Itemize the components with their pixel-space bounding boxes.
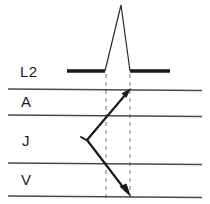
ladder-diagram-canvas: L2 A J V: [0, 0, 210, 204]
tier-label-l2: L2: [20, 63, 38, 80]
tier-label-j: J: [22, 132, 30, 149]
ecg-tracing: [67, 5, 170, 71]
ladder-diagram-figure: L2 A J V: [0, 0, 210, 204]
tier-lines: [8, 89, 202, 198]
tier-line-top-a: [8, 89, 202, 91]
tier-line-bottom-v: [8, 196, 202, 198]
tier-label-group: L2 A J V: [20, 63, 38, 188]
tier-label-v: V: [21, 171, 32, 188]
ecg-qrs-complex: [105, 5, 130, 71]
tier-label-a: A: [21, 93, 32, 110]
tier-line-a-j: [8, 115, 202, 117]
